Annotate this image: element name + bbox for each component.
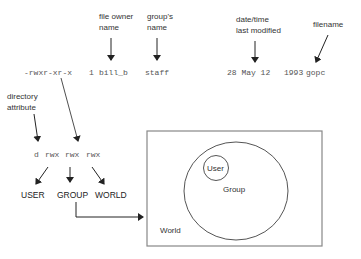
directory-line1: directory xyxy=(7,91,38,102)
date-value: 28 May 12 xyxy=(227,68,270,77)
file-owner-label: file owner name xyxy=(99,11,133,33)
owner-name: bill_b xyxy=(99,68,128,77)
perm-dir: d xyxy=(34,150,39,159)
category-user: USER xyxy=(21,190,45,200)
perm-world: rwx xyxy=(86,150,100,159)
filename-label: filename xyxy=(313,19,343,30)
venn-user-label: User xyxy=(207,163,224,174)
group-name-label: group's name xyxy=(147,11,173,33)
group-name-line2: name xyxy=(147,22,173,33)
directory-attribute-label: directory attribute xyxy=(7,91,38,113)
links-count: 1 xyxy=(89,68,94,77)
date-line2: last modified xyxy=(236,25,281,36)
venn-group-label: Group xyxy=(223,184,245,195)
directory-line2: attribute xyxy=(7,102,38,113)
group-name-line1: group's xyxy=(147,11,173,22)
perm-user: rwx xyxy=(45,150,59,159)
file-owner-line1: file owner xyxy=(99,11,133,22)
category-world: WORLD xyxy=(95,190,127,200)
file-owner-line2: name xyxy=(99,22,133,33)
diagram-lines xyxy=(0,0,361,259)
date-label: date/time last modified xyxy=(236,14,281,36)
venn-world-label: World xyxy=(160,225,181,236)
size-value: 1993 xyxy=(284,68,303,77)
date-line1: date/time xyxy=(236,14,281,25)
perm-group: rwx xyxy=(65,150,79,159)
category-group: GROUP xyxy=(57,190,88,200)
filename-value: gopc xyxy=(306,68,325,77)
group-value: staff xyxy=(145,68,169,77)
permissions-string: -rwxr-xr-x xyxy=(24,68,72,77)
